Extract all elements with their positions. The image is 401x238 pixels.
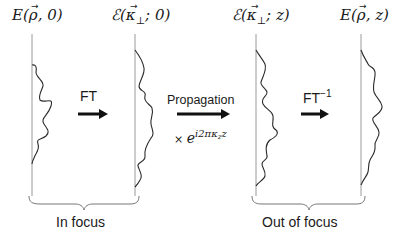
propagation-arrow-head bbox=[221, 109, 230, 119]
waveform-real-in-focus bbox=[32, 65, 52, 164]
waveform-fourier-out-of-focus bbox=[256, 50, 277, 186]
panel-title-fourier-out-of-focus: ℰ(κ⊥; z) → bbox=[232, 1, 290, 26]
in-focus-label: In focus bbox=[56, 214, 105, 230]
waveform-fourier-in-focus bbox=[135, 50, 153, 187]
svg-text:→: → bbox=[31, 1, 39, 11]
propagation-arrow-group: Propagation × ei2πκzz bbox=[167, 93, 234, 146]
ft-arrow-group: FT bbox=[78, 88, 108, 119]
svg-text:ℰ(κ⊥; 0): ℰ(κ⊥; 0) bbox=[111, 6, 170, 26]
brace-in-focus bbox=[29, 196, 139, 210]
ft-label: FT bbox=[80, 88, 98, 104]
out-of-focus-label: Out of focus bbox=[262, 214, 337, 230]
panel-title-fourier-in-focus: ℰ(κ⊥; 0) → bbox=[111, 1, 170, 26]
svg-text:→: → bbox=[359, 1, 367, 11]
svg-text:→: → bbox=[251, 1, 259, 11]
inverse-ft-arrow-head bbox=[320, 109, 329, 119]
propagation-phase-factor: × ei2πκzz bbox=[174, 128, 227, 146]
svg-text:ℰ(κ⊥; z): ℰ(κ⊥; z) bbox=[232, 6, 290, 26]
brace-out-of-focus bbox=[252, 196, 365, 210]
panel-title-real-out-of-focus: E(ρ, z) → bbox=[339, 1, 389, 24]
waveform-real-out-of-focus bbox=[361, 50, 382, 185]
panel-title-real-in-focus: E(ρ, 0) → bbox=[11, 1, 63, 24]
inverse-ft-label: FT−1 bbox=[303, 88, 332, 106]
propagation-label: Propagation bbox=[167, 93, 234, 107]
inverse-ft-arrow-group: FT−1 bbox=[301, 88, 332, 119]
fourier-propagation-diagram: E(ρ, 0) → ℰ(κ⊥; 0) → ℰ(κ⊥; z) → E(ρ, z) … bbox=[0, 0, 401, 238]
ft-arrow-head bbox=[99, 109, 108, 119]
svg-text:→: → bbox=[130, 1, 138, 11]
